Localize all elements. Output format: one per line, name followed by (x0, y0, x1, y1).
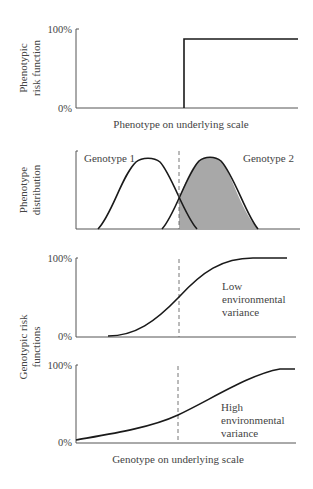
low-variance-panel: 100% 0% Low environmental variance (48, 253, 297, 342)
axes (76, 365, 296, 443)
ytick-0: 0% (58, 437, 72, 448)
phenotypic-risk-ylabel-2: risk function (30, 40, 42, 96)
low-variance-annotation-1: Low (222, 280, 242, 292)
phenotypic-risk-ylabel-1: Phenotypic (17, 43, 29, 93)
ytick-100: 100% (48, 360, 73, 371)
phenotypic-xlabel: Phenotype on underlying scale (113, 118, 248, 130)
high-variance-annotation-2: environmental (221, 414, 285, 426)
phenotypic-risk-panel: Phenotypic risk function 100% 0% Phenoty… (17, 24, 298, 130)
ytick-100: 100% (48, 24, 73, 35)
high-variance-risk-curve (76, 369, 295, 440)
high-variance-annotation-1: High (221, 401, 244, 413)
ytick-0: 0% (58, 103, 72, 114)
distribution-ylabel-2: distribution (30, 164, 42, 215)
genotypic-risk-ylabel-1: Genotypic risk (17, 314, 29, 380)
ytick-100: 100% (48, 253, 73, 264)
low-variance-annotation-3: variance (222, 306, 259, 318)
low-variance-annotation-2: environmental (222, 293, 286, 305)
genotype2-label: Genotype 2 (243, 152, 294, 164)
genotype2-shaded-area (179, 157, 258, 229)
genotype1-label: Genotype 1 (84, 152, 135, 164)
distribution-ylabel-1: Phenotype (17, 167, 29, 214)
genotype-xlabel: Genotype on underlying scale (112, 453, 244, 465)
phenotype-distribution-panel: Phenotype distribution Genotype 1 Genoty… (17, 151, 300, 229)
step-risk-curve (184, 39, 298, 108)
axes (76, 29, 298, 108)
genotypic-risk-ylabel-2: functions (30, 327, 42, 368)
ytick-0: 0% (58, 331, 72, 342)
high-variance-panel: 100% 0% High environmental variance Geno… (48, 360, 297, 465)
high-variance-annotation-3: variance (221, 427, 258, 439)
figure: Phenotypic risk function 100% 0% Phenoty… (0, 0, 313, 489)
